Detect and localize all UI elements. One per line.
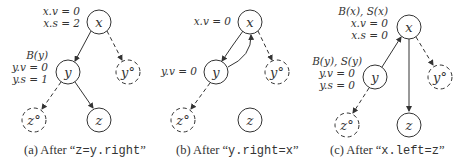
caption-a-prefix: (a) After “ [24,143,75,157]
annotation-x-line2: x.v = 0 [351,17,389,29]
node-x-label: x [405,20,413,35]
node-z-ghost-label: z° [339,118,353,133]
node-y-ghost-label: y° [120,65,135,80]
annotation-y-line1: B(y), S(y) [311,55,362,67]
edge-y-to-zghost [42,82,61,109]
node-y-label: y [211,65,220,80]
node-y-ghost-label: y° [432,70,447,85]
panel-b: x y y° z° z x.v = 0 y.v = 0 [160,10,289,132]
caption-a: (a) After “z=y.right” [24,143,146,158]
node-z-label: z [95,113,103,128]
annotation-y-line1: B(y) [25,49,48,61]
edge-x-to-y [222,31,243,61]
annotation-y-line2: y.v = 0 [11,61,48,73]
caption-b-code: y.right=x [228,144,293,158]
panel-a: x y y° z° z x.v = 0 x.s = 2 B(y) y.v = 0… [11,5,140,132]
caption-c-code: x.left=z [381,144,439,158]
caption-c: (c) After “x.left=z” [330,143,445,158]
annotation-x-line2: x.s = 2 [43,17,80,29]
edge-y-to-zghost [353,88,369,113]
caption-b-suffix: ” [293,143,299,157]
edge-y-to-zghost [191,83,210,109]
node-y-ghost-label: y° [269,65,284,80]
edge-x-to-yghost [258,31,272,60]
edge-y-to-x [382,37,401,67]
annotation-y-line1: y.v = 0 [160,65,197,77]
node-z-label: z [246,113,254,128]
caption-b-prefix: (b) After “ [176,143,228,157]
annotation-x-line3: x.s = 0 [351,29,388,41]
caption-a-code: z=y.right [75,144,140,158]
annotation-x-line1: B(x), S(x) [337,5,388,17]
edge-y-to-z [75,82,93,108]
edge-y-to-x [228,35,251,67]
node-x-label: x [95,15,103,30]
annotation-y-line3: y.s = 0 [319,79,356,91]
edge-x-to-y [75,31,91,61]
node-y-label: y [370,70,379,85]
panel-c: x y y° z° z B(x), S(x) x.v = 0 x.s = 0 B… [311,5,452,137]
diagram-canvas: x y y° z° z x.v = 0 x.s = 2 B(y) y.v = 0… [0,0,462,163]
caption-c-suffix: ” [439,143,445,157]
edge-x-to-yghost [107,31,122,60]
caption-a-suffix: ” [140,143,146,157]
annotation-y-line3: y.s = 1 [12,73,48,85]
node-z-label: z [405,118,413,133]
caption-c-prefix: (c) After “ [330,143,381,157]
node-z-ghost-label: z° [26,113,40,128]
node-y-label: y [63,65,72,80]
caption-b: (b) After “y.right=x” [176,143,298,158]
node-z-ghost-label: z° [175,113,189,128]
annotation-x-line1: x.v = 0 [43,5,81,17]
node-x-label: x [246,15,254,30]
annotation-y-line2: y.v = 0 [318,67,355,79]
edge-x-to-yghost [416,37,433,65]
annotation-x-line1: x.v = 0 [194,15,232,27]
